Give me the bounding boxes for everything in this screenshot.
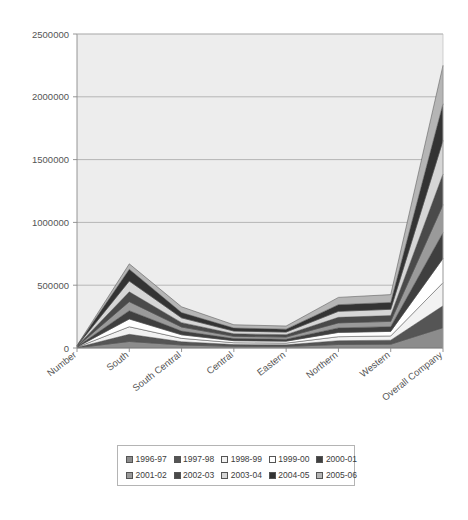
x-category-label-group: Number xyxy=(45,349,78,378)
legend-item-1999-00[interactable]: 1999-00 xyxy=(261,454,309,464)
legend-item-2004-05[interactable]: 2004-05 xyxy=(261,470,309,480)
legend-swatch-icon xyxy=(126,472,133,479)
legend-label: 2002-03 xyxy=(183,470,214,480)
legend-swatch-icon xyxy=(126,456,133,463)
x-category-label-group: Northern xyxy=(304,349,340,380)
x-tick-label: South Central xyxy=(130,349,183,393)
y-tick-label: 2000000 xyxy=(32,91,69,102)
legend-row-2: 2001-02 2002-03 2003-04 2004-05 2005-06 xyxy=(118,467,354,483)
legend-label: 1997-98 xyxy=(183,454,214,464)
legend-item-2002-03[interactable]: 2002-03 xyxy=(166,470,214,480)
legend-swatch-icon xyxy=(269,472,276,479)
y-tick-label: 1500000 xyxy=(32,154,69,165)
legend-swatch-icon xyxy=(221,472,228,479)
chart-canvas: 05000001000000150000020000002500000Numbe… xyxy=(0,0,468,440)
x-category-label-group: Eastern xyxy=(255,349,288,378)
legend-item-2003-04[interactable]: 2003-04 xyxy=(213,470,261,480)
x-category-label-group: Central xyxy=(204,349,235,377)
legend-item-2000-01[interactable]: 2000-01 xyxy=(308,454,356,464)
y-tick-label: 1000000 xyxy=(32,217,69,228)
legend-swatch-icon xyxy=(174,472,181,479)
x-tick-label: Western xyxy=(357,349,392,379)
legend-swatch-icon xyxy=(316,456,323,463)
legend-row-1: 1996-97 1997-98 1998-99 1999-00 2000-01 xyxy=(118,451,354,467)
legend-swatch-icon xyxy=(316,472,323,479)
x-tick-label: Central xyxy=(204,349,235,377)
chart-legend: 1996-97 1997-98 1998-99 1999-00 2000-01 … xyxy=(117,445,355,486)
legend-label: 2003-04 xyxy=(231,470,262,480)
legend-label: 1999-00 xyxy=(278,454,309,464)
y-tick-label: 2500000 xyxy=(32,29,69,40)
legend-swatch-icon xyxy=(221,456,228,463)
x-tick-label: Northern xyxy=(304,349,340,380)
x-tick-label: Eastern xyxy=(255,349,288,378)
legend-label: 2001-02 xyxy=(136,470,167,480)
x-category-label-group: Western xyxy=(357,349,392,379)
stacked-area-chart: 05000001000000150000020000002500000Numbe… xyxy=(0,0,468,520)
legend-label: 2005-06 xyxy=(326,470,357,480)
legend-swatch-icon xyxy=(269,456,276,463)
y-tick-label: 500000 xyxy=(37,280,69,291)
legend-item-1998-99[interactable]: 1998-99 xyxy=(213,454,261,464)
x-category-label-group: South xyxy=(104,349,130,373)
x-category-label-group: South Central xyxy=(130,349,183,393)
legend-item-1997-98[interactable]: 1997-98 xyxy=(166,454,214,464)
x-tick-label: Number xyxy=(45,349,78,378)
legend-item-2001-02[interactable]: 2001-02 xyxy=(118,470,166,480)
legend-label: 1998-99 xyxy=(231,454,262,464)
legend-label: 2004-05 xyxy=(278,470,309,480)
x-tick-label: South xyxy=(104,349,130,373)
legend-label: 1996-97 xyxy=(136,454,167,464)
legend-swatch-icon xyxy=(174,456,181,463)
legend-item-2005-06[interactable]: 2005-06 xyxy=(308,470,356,480)
legend-item-1996-97[interactable]: 1996-97 xyxy=(118,454,166,464)
legend-label: 2000-01 xyxy=(326,454,357,464)
